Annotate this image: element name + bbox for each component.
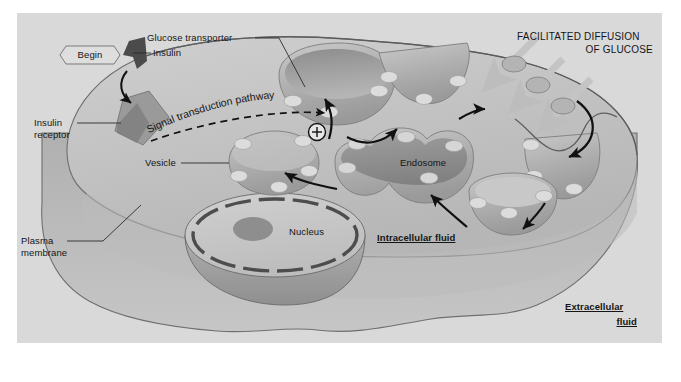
extracellular-fluid-label-line2: fluid [565,316,637,328]
intracellular-fluid-label: Intracellular fluid [377,232,455,244]
plus-sign-circle [309,124,326,141]
glucose-transporter-bump [295,136,312,147]
glucose-transporter-bump [397,132,415,143]
insulin-receptor-label-line2: receptor [34,129,70,141]
plasma-membrane-label-line2: membrane [21,247,67,259]
glucose-transporter-bump [284,95,302,107]
vesicle-labelled [229,131,319,195]
glucose-transporter-bump [470,198,487,209]
endosome-label: Endosome [400,157,446,169]
insulin-label: Insulin [153,47,181,59]
facilitated-diffusion-label-line1: FACILITATED DIFFUSION [517,31,640,43]
glucose-transporter-membrane [502,56,526,72]
glucose-transporter-label: Glucose transporter [147,32,232,44]
begin-label: Begin [59,49,121,61]
glucose-transporter-bump [501,208,518,219]
nucleus-top [185,193,365,277]
nucleolus [233,217,273,241]
glucose-transporter-bump [566,184,583,195]
nucleus-label: Nucleus [289,226,324,238]
glucose-transporter-bump [381,72,398,83]
glucose-transporter-bump [271,182,288,193]
figure-canvas: Begin Insulin Insulin receptor Glucose t… [0,0,681,382]
insulin-receptor-label-line1: Insulin [34,117,62,129]
begin-badge[interactable]: Begin [59,45,121,65]
glucose-transporter-bump [420,173,438,184]
facilitated-diffusion-label-line2: OF GLUCOSE [517,44,653,56]
glucose-transporter-bump [301,166,318,177]
glucose-transporter-bump [370,85,388,97]
glucose-transporter-membrane [526,77,550,93]
cell-diagram: Begin Insulin Insulin receptor Glucose t… [17,13,662,343]
glucose-transporter-bump [235,139,252,150]
glucose-transporter-bump [231,171,248,182]
vesicle-label: Vesicle [145,157,176,169]
glucose-transporter-bump [445,141,463,152]
glucose-transporter-bump [338,163,356,174]
glucose-transporter-bump [450,76,467,87]
glucose-transporter-bump [416,94,433,105]
glucose-transporter-bump [536,191,553,202]
extracellular-fluid-label-line1: Extracellular [565,301,623,313]
glucose-transporter-bump [523,140,540,151]
glucose-transporter-membrane [551,98,575,114]
plasma-membrane-label-line1: Plasma [21,235,53,247]
